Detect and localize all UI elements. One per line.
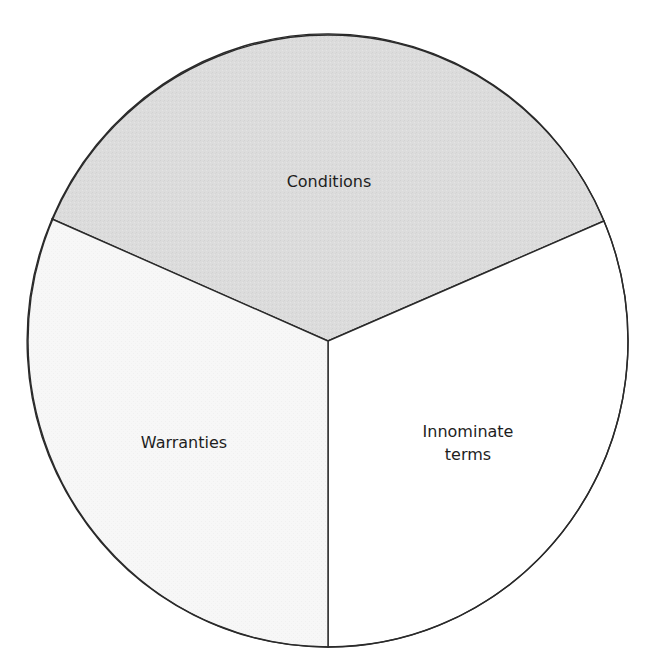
label-warranties-text: Warranties <box>141 433 227 452</box>
label-innominate-line2: terms <box>423 443 514 466</box>
terms-classification-diagram: Conditions Innominate terms Warranties <box>0 0 647 669</box>
label-conditions-text: Conditions <box>287 172 372 191</box>
label-innominate-terms: Innominate terms <box>423 420 514 466</box>
label-conditions: Conditions <box>287 170 372 193</box>
label-innominate-line1: Innominate <box>423 420 514 443</box>
label-warranties: Warranties <box>141 431 227 454</box>
pie-graphic <box>0 0 647 669</box>
